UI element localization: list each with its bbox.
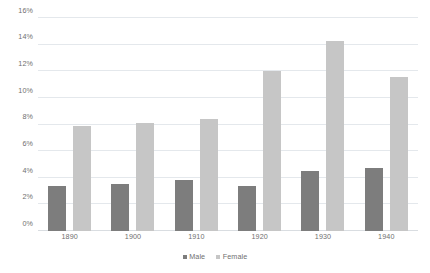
bar-group (228, 18, 291, 231)
chart-legend: MaleFemale (0, 253, 430, 260)
x-axis-tick-label: 1890 (38, 233, 101, 240)
bar-group (291, 18, 354, 231)
legend-swatch-icon (183, 255, 187, 259)
legend-label: Female (223, 253, 248, 260)
y-axis-tick-label: 12% (18, 60, 33, 67)
bar-female-1890[interactable] (73, 126, 91, 231)
bars-layer (38, 18, 418, 231)
bar-male-1920[interactable] (238, 186, 256, 231)
y-axis-tick-label: 14% (18, 34, 33, 41)
x-axis-tick-label: 1930 (291, 233, 354, 240)
x-axis-tick-label: 1920 (228, 233, 291, 240)
legend-label: Male (189, 253, 205, 260)
y-axis-tick-label: 4% (22, 167, 33, 174)
y-axis-tick-label: 10% (18, 87, 33, 94)
bar-group (38, 18, 101, 231)
bar-male-1930[interactable] (301, 171, 319, 231)
bar-male-1890[interactable] (48, 186, 66, 231)
plot-area: 0%2%4%6%8%10%12%14%16% (38, 18, 418, 231)
legend-swatch-icon (216, 255, 220, 259)
bar-female-1940[interactable] (390, 77, 408, 231)
bar-group (165, 18, 228, 231)
x-axis-tick-label: 1900 (101, 233, 164, 240)
y-axis-tick-label: 16% (18, 7, 33, 14)
y-axis-tick-label: 8% (22, 114, 33, 121)
legend-item-female[interactable]: Female (216, 253, 247, 260)
x-axis-tick-label: 1910 (165, 233, 228, 240)
y-axis-tick-label: 2% (22, 194, 33, 201)
x-axis-tick-label: 1940 (355, 233, 418, 240)
bar-female-1900[interactable] (136, 123, 154, 231)
legend-item-male[interactable]: Male (183, 253, 205, 260)
bar-female-1930[interactable] (326, 41, 344, 231)
y-axis-tick-label: 6% (22, 140, 33, 147)
bar-group (355, 18, 418, 231)
bar-female-1910[interactable] (200, 119, 218, 231)
bar-male-1900[interactable] (111, 184, 129, 231)
bar-chart: 0%2%4%6%8%10%12%14%16% 18901900191019201… (0, 0, 430, 273)
bar-male-1940[interactable] (365, 168, 383, 231)
bar-male-1910[interactable] (175, 180, 193, 231)
x-axis-tick-labels: 189019001910192019301940 (38, 233, 418, 240)
y-axis-tick-label: 0% (22, 220, 33, 227)
bar-female-1920[interactable] (263, 71, 281, 231)
bar-group (101, 18, 164, 231)
